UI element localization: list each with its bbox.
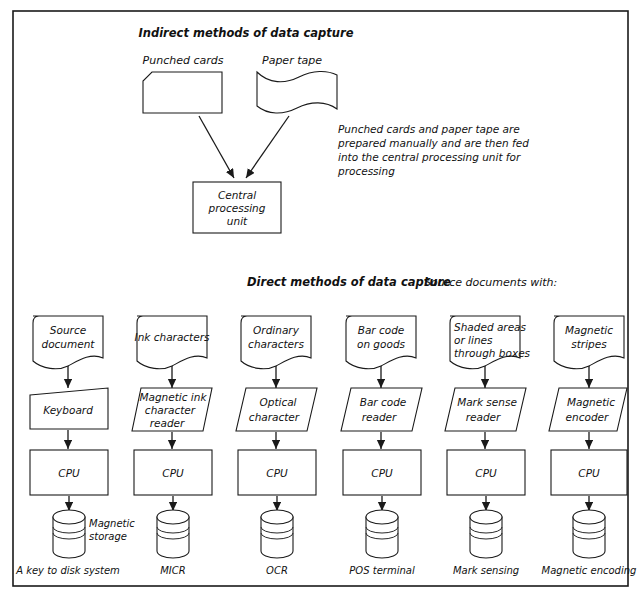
cpu-label-4: CPU xyxy=(371,467,393,479)
processor-label-6-line-1: Magnetic xyxy=(567,396,615,408)
bar-code-reader-shape xyxy=(341,388,422,431)
indirect-note-line-2: prepared manually and are then fed xyxy=(337,137,529,149)
punched-cards-label: Punched cards xyxy=(143,54,224,67)
arrow-tape-to-cpu xyxy=(246,116,289,178)
indirect-note-line-3: into the central processing unit for xyxy=(338,151,521,163)
optical-character-shape xyxy=(236,388,317,431)
processor-label-4-line-2: reader xyxy=(362,411,397,423)
data-capture-flowchart: Indirect methods of data capture Punched… xyxy=(0,0,640,601)
processor-label-5-line-1: Mark sense xyxy=(457,396,517,408)
paper-tape-label: Paper tape xyxy=(262,54,322,67)
caption-6: Magnetic encoding xyxy=(542,565,637,576)
cpu-label-1: CPU xyxy=(58,467,80,479)
column-mark-sensing: Shaded areas or lines through boxes Mark… xyxy=(445,316,531,576)
storage-cylinder-2 xyxy=(157,510,189,558)
storage-label-line-1: Magnetic xyxy=(89,518,135,529)
cpu-line-2: processing xyxy=(208,202,266,214)
processor-label-2-line-2: character xyxy=(145,404,196,416)
processor-label-1: Keyboard xyxy=(43,404,93,416)
caption-3: OCR xyxy=(266,565,288,576)
magnetic-encoder-shape xyxy=(549,388,627,431)
column-pos-terminal: Bar code on goods Bar code reader CPU PO… xyxy=(341,316,422,576)
processor-label-3-line-1: Optical xyxy=(259,396,296,408)
source-label-5-line-3: through boxes xyxy=(454,347,531,359)
source-label-4-line-1: Bar code xyxy=(358,324,405,336)
paper-tape-shape xyxy=(257,71,337,113)
direct-heading: Direct methods of data capture xyxy=(247,275,451,289)
column-key-to-disk: Source document Keyboard CPU Magnetic st… xyxy=(15,316,135,576)
cpu-label-6: CPU xyxy=(578,467,600,479)
caption-2: MICR xyxy=(160,565,186,576)
storage-label-line-2: storage xyxy=(89,531,127,542)
indirect-note-line-4: processing xyxy=(337,165,395,177)
mark-sense-reader-shape xyxy=(445,388,526,431)
caption-4: POS terminal xyxy=(349,565,415,576)
cpu-line-3: unit xyxy=(227,215,248,227)
storage-cylinder-1 xyxy=(53,510,85,558)
cpu-label-2: CPU xyxy=(162,467,184,479)
processor-label-2-line-1: Magnetic ink xyxy=(139,391,207,403)
processor-label-6-line-2: encoder xyxy=(566,411,609,423)
processor-label-4-line-1: Bar code xyxy=(360,396,407,408)
source-label-1-line-2: document xyxy=(42,338,96,350)
column-ocr: Ordinary characters Optical character CP… xyxy=(236,316,317,576)
source-label-6-line-1: Magnetic xyxy=(565,324,613,336)
column-micr: Ink characters Magnetic ink character re… xyxy=(132,316,212,576)
source-label-5-line-1: Shaded areas xyxy=(454,321,527,333)
cpu-line-1: Central xyxy=(218,189,256,201)
indirect-heading: Indirect methods of data capture xyxy=(138,26,353,40)
storage-cylinder-4 xyxy=(366,510,398,558)
caption-5: Mark sensing xyxy=(453,565,519,576)
source-label-6-line-2: stripes xyxy=(571,338,607,350)
cpu-label-5: CPU xyxy=(475,467,497,479)
source-label-5-line-2: or lines xyxy=(454,334,493,346)
cpu-label-3: CPU xyxy=(266,467,288,479)
storage-cylinder-5 xyxy=(470,510,502,558)
source-label-4-line-2: on goods xyxy=(357,338,406,350)
storage-cylinder-3 xyxy=(261,510,293,558)
caption-1: A key to disk system xyxy=(15,565,120,576)
source-label-2-line-1: Ink characters xyxy=(135,331,210,343)
source-label-1-line-1: Source xyxy=(50,324,86,336)
processor-label-5-line-2: reader xyxy=(466,411,501,423)
arrow-punched-to-cpu xyxy=(199,116,234,178)
indirect-note-line-1: Punched cards and paper tape are xyxy=(338,123,520,135)
processor-label-2-line-3: reader xyxy=(150,417,185,429)
column-magnetic-encoding: Magnetic stripes Magnetic encoder CPU Ma… xyxy=(542,316,637,576)
punched-cards-shape xyxy=(143,72,222,113)
source-label-3-line-1: Ordinary xyxy=(253,324,300,336)
diagram-page: Indirect methods of data capture Punched… xyxy=(0,0,640,601)
storage-cylinder-6 xyxy=(573,510,605,558)
source-label-3-line-2: characters xyxy=(248,338,304,350)
processor-label-3-line-2: character xyxy=(249,411,300,423)
direct-subheading: Source documents with: xyxy=(424,276,557,289)
